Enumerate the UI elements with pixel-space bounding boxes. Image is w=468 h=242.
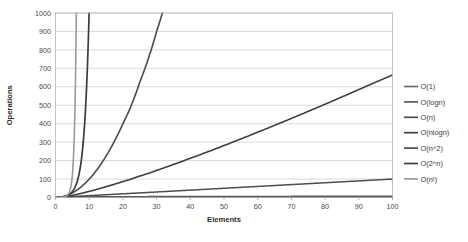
y-tick-label: 200 bbox=[39, 156, 51, 165]
legend-item: O(n!) bbox=[404, 175, 437, 184]
chart-canvas: 01002003004005006007008009001000 0102030… bbox=[0, 0, 468, 242]
y-tick-label: 700 bbox=[39, 64, 51, 73]
legend-item: O(n) bbox=[404, 113, 435, 122]
y-tick-label: 300 bbox=[39, 138, 51, 147]
y-tick-label: 500 bbox=[39, 101, 51, 110]
y-axis-tick-labels: 01002003004005006007008009001000 bbox=[35, 9, 51, 203]
y-tick-label: 1000 bbox=[35, 9, 51, 18]
y-tick-label: 600 bbox=[39, 82, 51, 91]
legend-item: O(n^2) bbox=[404, 144, 443, 153]
x-tick-label: 30 bbox=[153, 202, 161, 211]
x-tick-label: 50 bbox=[220, 202, 228, 211]
x-axis-tick-labels: 0102030405060708090100 bbox=[54, 202, 399, 211]
legend-item: O(2^n) bbox=[404, 159, 443, 168]
legend-label: O(logn) bbox=[421, 98, 446, 107]
big-o-complexity-chart: 01002003004005006007008009001000 0102030… bbox=[0, 0, 468, 242]
x-tick-label: 70 bbox=[287, 202, 295, 211]
legend-label: O(nlogn) bbox=[421, 128, 450, 137]
x-tick-label: 100 bbox=[387, 202, 399, 211]
y-tick-label: 100 bbox=[39, 175, 51, 184]
legend-label: O(2^n) bbox=[421, 159, 443, 168]
x-tick-label: 0 bbox=[54, 202, 58, 211]
legend-item: O(nlogn) bbox=[404, 128, 449, 137]
y-tick-label: 900 bbox=[39, 27, 51, 36]
y-axis-title: Operations bbox=[5, 85, 14, 125]
legend-item: O(1) bbox=[404, 82, 435, 91]
x-tick-label: 80 bbox=[321, 202, 329, 211]
x-tick-label: 10 bbox=[85, 202, 93, 211]
x-axis-title: Elements bbox=[207, 215, 241, 224]
legend-item: O(logn) bbox=[404, 98, 445, 107]
x-tick-label: 40 bbox=[186, 202, 194, 211]
legend-label: O(n!) bbox=[421, 175, 438, 184]
legend-label: O(n) bbox=[421, 113, 436, 122]
x-tick-label: 60 bbox=[254, 202, 262, 211]
y-tick-label: 800 bbox=[39, 46, 51, 55]
y-tick-label: 0 bbox=[47, 193, 51, 202]
y-tick-label: 400 bbox=[39, 119, 51, 128]
x-tick-label: 90 bbox=[355, 202, 363, 211]
x-tick-label: 20 bbox=[119, 202, 127, 211]
chart-legend: O(1)O(logn)O(n)O(nlogn)O(n^2)O(2^n)O(n!) bbox=[404, 82, 449, 183]
legend-label: O(n^2) bbox=[421, 144, 443, 153]
legend-label: O(1) bbox=[421, 82, 436, 91]
